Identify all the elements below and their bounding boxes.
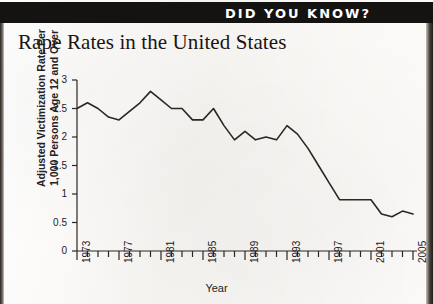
x-tick-label: 1977 xyxy=(123,241,134,263)
x-tick-label: 1985 xyxy=(207,241,218,263)
did-you-know-chart-page: DID YOU KNOW? Rape Rates in the United S… xyxy=(0,0,433,304)
y-tick-label: 2.5 xyxy=(41,103,67,114)
y-tick-label: 2 xyxy=(41,131,67,142)
x-tick-label: 1997 xyxy=(333,241,344,263)
x-tick-label: 2001 xyxy=(375,241,386,263)
y-tick-label: 0 xyxy=(41,245,67,256)
x-tick-label: 1973 xyxy=(81,241,92,263)
axis-lines xyxy=(77,80,417,251)
rape-rate-line-series xyxy=(77,91,413,216)
x-axis-label: Year xyxy=(0,282,433,294)
x-tick-label: 2005 xyxy=(417,241,428,263)
x-tick-label: 1989 xyxy=(249,241,260,263)
x-tick-label: 1981 xyxy=(165,241,176,263)
x-tick-label: 1993 xyxy=(291,241,302,263)
y-tick-label: 0.5 xyxy=(41,217,67,228)
y-tick-label: 3 xyxy=(41,74,67,85)
y-tick-label: 1.5 xyxy=(41,160,67,171)
y-tick-label: 1 xyxy=(41,188,67,199)
y-axis-ticks xyxy=(72,80,77,251)
